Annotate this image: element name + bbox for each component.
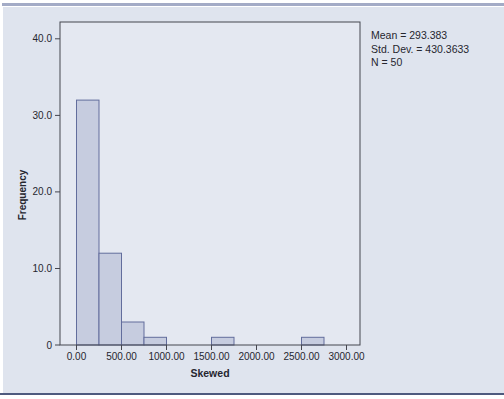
x-tick-label: 0.00 bbox=[67, 351, 87, 362]
x-tick-label: 500.00 bbox=[106, 351, 137, 362]
y-tick-label: 0 bbox=[46, 340, 52, 351]
histogram-bar bbox=[212, 337, 235, 345]
x-tick-label: 2500.00 bbox=[283, 351, 320, 362]
histogram-figure: 0.00500.001000.001500.002000.002500.0030… bbox=[0, 0, 504, 399]
stat-std-dev: Std. Dev. = 430.3633 bbox=[371, 43, 469, 57]
histogram-bar bbox=[122, 322, 145, 345]
y-tick-label: 30.0 bbox=[33, 110, 53, 121]
x-axis-title: Skewed bbox=[110, 367, 310, 379]
histogram-bar bbox=[77, 100, 100, 345]
histogram-bar bbox=[99, 253, 122, 345]
x-tick-label: 1500.00 bbox=[193, 351, 230, 362]
histogram-bar bbox=[144, 337, 167, 345]
y-axis-title: Frequency bbox=[17, 143, 31, 247]
stats-annotation: Mean = 293.383 Std. Dev. = 430.3633 N = … bbox=[371, 29, 469, 70]
y-tick-label: 40.0 bbox=[33, 33, 53, 44]
x-tick-label: 3000.00 bbox=[328, 351, 365, 362]
bottom-rule bbox=[0, 393, 504, 395]
x-tick-label: 1000.00 bbox=[148, 351, 185, 362]
stat-mean: Mean = 293.383 bbox=[371, 29, 469, 43]
histogram-bar bbox=[302, 337, 325, 345]
x-tick-label: 2000.00 bbox=[238, 351, 275, 362]
y-tick-label: 20.0 bbox=[33, 186, 53, 197]
stat-n: N = 50 bbox=[371, 56, 469, 70]
y-tick-label: 10.0 bbox=[33, 263, 53, 274]
